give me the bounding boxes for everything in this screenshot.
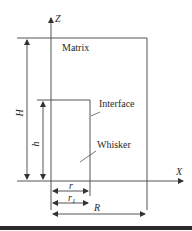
R-label: R — [93, 202, 100, 213]
bottom-divider-bar — [0, 226, 192, 230]
matrix-boundary — [17, 38, 147, 210]
whisker-leader-line — [80, 151, 96, 162]
z-axis-label: Z — [55, 13, 61, 24]
interface-label: Interface — [99, 98, 135, 109]
interface-leader-line — [91, 112, 100, 116]
whisker-matrix-diagram: Z X Matrix Interface Whisker H — [0, 0, 192, 231]
x-axis-label: X — [175, 166, 183, 177]
H-label: H — [14, 109, 25, 118]
r-label: r — [69, 180, 73, 191]
h-label: h — [30, 142, 41, 147]
whisker-label: Whisker — [97, 139, 132, 150]
matrix-label: Matrix — [62, 42, 89, 53]
whisker-boundary — [37, 100, 90, 196]
